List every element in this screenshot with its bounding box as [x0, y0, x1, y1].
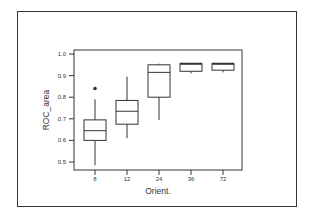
x-tick-label: 72 [220, 176, 227, 182]
y-tick-label: 0.8 [58, 94, 67, 100]
y-tick-label: 0.6 [58, 137, 67, 143]
iqr-box [180, 64, 202, 72]
box-72 [212, 64, 234, 73]
x-axis-label: Orient. [145, 186, 171, 196]
y-tick-label: 1.0 [58, 51, 67, 57]
y-tick-label: 0.5 [58, 159, 67, 165]
boxes [84, 64, 234, 166]
x-axis: 812243672 [93, 170, 227, 182]
box-36 [180, 64, 202, 74]
y-tick-label: 0.9 [58, 73, 67, 79]
x-tick-label: 36 [188, 176, 195, 182]
box-24 [148, 64, 170, 120]
x-tick-label: 8 [93, 176, 97, 182]
iqr-box [116, 100, 138, 124]
x-tick-label: 24 [156, 176, 163, 182]
boxplot-chart: 0.50.60.70.80.91.0 812243672 Orient. ROC… [0, 0, 311, 218]
y-tick-label: 0.7 [58, 116, 67, 122]
x-tick-label: 12 [124, 176, 131, 182]
iqr-box [84, 120, 106, 141]
outlier-point [93, 87, 97, 91]
chart-canvas: 0.50.60.70.80.91.0 812243672 Orient. ROC… [0, 0, 311, 218]
box-12 [116, 77, 138, 139]
iqr-box [148, 65, 170, 97]
box-8 [84, 87, 106, 165]
y-axis: 0.50.60.70.80.91.0 [58, 51, 74, 165]
y-axis-label: ROC_area [41, 89, 51, 130]
